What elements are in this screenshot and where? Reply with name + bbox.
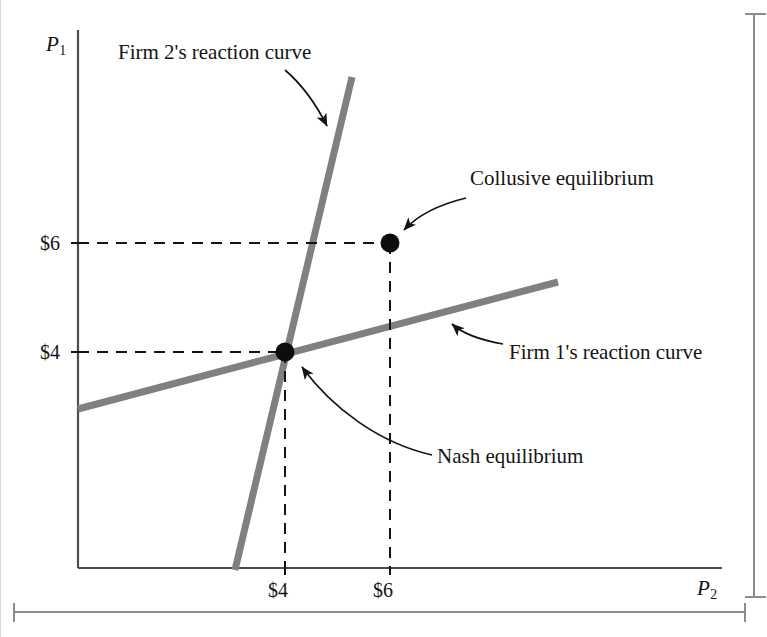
- nash-equilibrium-point: [276, 343, 295, 362]
- y-tick-label-4: $4: [40, 342, 60, 362]
- firm2-reaction-curve-label: Firm 2's reaction curve: [118, 42, 311, 63]
- y-axis-title: P1: [46, 34, 66, 58]
- y-axis-title-subscript: 1: [59, 43, 66, 58]
- firm1-reaction-curve: [78, 282, 558, 409]
- collusive-equilibrium-point: [381, 234, 400, 253]
- x-axis-title-text: P: [697, 576, 710, 600]
- firm1-reaction-curve-label: Firm 1's reaction curve: [509, 342, 702, 363]
- nash-equilibrium-label: Nash equilibrium: [437, 446, 583, 467]
- x-axis-title: P2: [697, 578, 717, 602]
- nash-label-arrow: [302, 367, 432, 455]
- figure-root: P1 P2 $6 $4 $4 $6 Firm 2's reaction curv…: [0, 0, 767, 637]
- diagram-canvas: [0, 0, 767, 637]
- collusive-equilibrium-label: Collusive equilibrium: [470, 168, 654, 189]
- x-tick-label-4: $4: [268, 580, 288, 600]
- firm2-label-arrow: [285, 70, 327, 126]
- x-axis-title-subscript: 2: [710, 587, 717, 602]
- x-tick-label-6: $6: [373, 580, 393, 600]
- y-axis-title-text: P: [46, 32, 59, 56]
- firm1-label-arrow: [452, 324, 503, 344]
- firm2-reaction-curve: [235, 77, 352, 570]
- collusive-label-arrow: [404, 198, 466, 230]
- y-tick-label-6: $6: [40, 233, 60, 253]
